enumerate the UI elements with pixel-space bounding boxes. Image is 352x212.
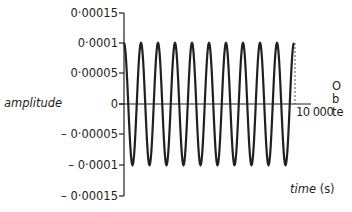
cut-off-caption-line: te (332, 106, 344, 119)
x-axis-label-unit: (s) (316, 182, 335, 196)
y-axis-label: amplitude (4, 96, 62, 110)
x-axis-label-quantity: time (290, 182, 316, 196)
y-tick-label: – 0·00005 (0, 127, 118, 141)
x-tick-label: 10 000 (296, 105, 333, 119)
y-tick-label: – 0·0001 (0, 158, 118, 172)
y-tick-label: 0·00005 (0, 66, 118, 80)
x-axis-label: time (s) (290, 182, 335, 196)
y-tick-label: – 0·00015 (0, 189, 118, 203)
y-tick-label: 0·00015 (0, 6, 118, 20)
y-tick-label: 0·0001 (0, 36, 118, 50)
